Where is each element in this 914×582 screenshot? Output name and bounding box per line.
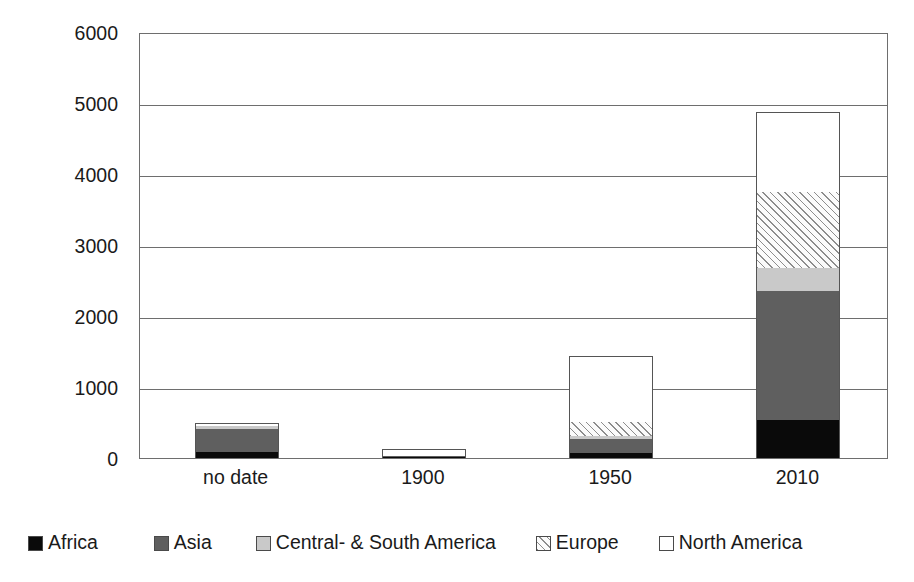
x-tick-label-1900: 1900 <box>333 468 513 488</box>
legend-label: Africa <box>48 533 98 553</box>
bar-group-no-date[interactable] <box>195 423 279 458</box>
y-tick-label-4000: 4000 <box>0 166 128 186</box>
legend-item-europe[interactable]: Europe <box>536 533 619 553</box>
legend-item-north-america[interactable]: North America <box>659 533 803 553</box>
x-tick-label-1950: 1950 <box>520 468 700 488</box>
legend-swatch-central-south-america <box>256 536 271 551</box>
y-tick-label-3000: 3000 <box>0 237 128 257</box>
y-tick-label-5000: 5000 <box>0 95 128 115</box>
y-tick-label-2000: 2000 <box>0 308 128 328</box>
bar-segment-north-america[interactable] <box>569 356 653 422</box>
legend-label: Asia <box>174 533 212 553</box>
legend-item-central-south-america[interactable]: Central- & South America <box>256 533 496 553</box>
legend-swatch-north-america <box>659 536 674 551</box>
y-tick-label-0: 0 <box>0 450 128 470</box>
y-tick-label-6000: 6000 <box>0 24 128 44</box>
bar-group-1950[interactable] <box>569 356 653 458</box>
plot-area <box>139 33 888 459</box>
bar-segment-europe[interactable] <box>756 192 840 268</box>
bar-segment-north-america[interactable] <box>756 112 840 192</box>
bar-segment-africa[interactable] <box>195 452 279 458</box>
chart-legend: AfricaAsiaCentral- & South AmericaEurope… <box>28 528 908 558</box>
legend-swatch-africa <box>28 536 43 551</box>
bar-segment-africa[interactable] <box>756 420 840 458</box>
bar-group-2010[interactable] <box>756 112 840 458</box>
bar-segment-africa[interactable] <box>569 453 653 458</box>
bar-segment-asia[interactable] <box>756 291 840 420</box>
x-axis-tick-labels: no date190019502010 <box>139 468 888 498</box>
legend-swatch-europe <box>536 536 551 551</box>
legend-item-asia[interactable]: Asia <box>154 533 212 553</box>
legend-swatch-asia <box>154 536 169 551</box>
bar-segment-europe[interactable] <box>569 422 653 436</box>
x-tick-label-no-date: no date <box>146 468 326 488</box>
bar-segment-africa[interactable] <box>382 457 466 458</box>
bar-segment-asia[interactable] <box>195 429 279 452</box>
bar-group-1900[interactable] <box>382 449 466 458</box>
legend-label: Central- & South America <box>276 533 496 553</box>
legend-label: Europe <box>556 533 619 553</box>
y-tick-label-1000: 1000 <box>0 379 128 399</box>
x-tick-label-2010: 2010 <box>707 468 887 488</box>
chart-figure: Number of dams 6000500040003000200010000… <box>0 0 914 582</box>
bar-segment-central-south-america[interactable] <box>756 268 840 291</box>
bar-segment-asia[interactable] <box>569 439 653 452</box>
legend-label: North America <box>679 533 803 553</box>
legend-item-africa[interactable]: Africa <box>28 533 98 553</box>
gridline-5000 <box>140 105 887 106</box>
